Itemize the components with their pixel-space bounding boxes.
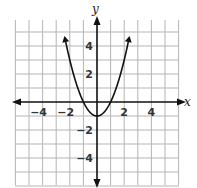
y-axis-label: y: [91, 2, 99, 16]
svg-text:−4: −4: [76, 152, 93, 165]
y-axis-down-arrow-icon: [94, 179, 101, 188]
coordinate-plane: −4−22442−2−4 x y: [0, 0, 197, 188]
svg-text:−4: −4: [30, 106, 47, 119]
svg-text:2: 2: [85, 68, 93, 81]
svg-text:2: 2: [120, 106, 128, 119]
svg-text:−2: −2: [76, 124, 93, 137]
svg-text:4: 4: [85, 40, 93, 53]
y-axis-up-arrow-icon: [94, 16, 101, 25]
svg-text:−2: −2: [57, 106, 74, 119]
graph-figure: −4−22442−2−4 x y: [0, 0, 197, 188]
x-axis-left-arrow-icon: [12, 99, 21, 106]
svg-text:4: 4: [148, 106, 156, 119]
x-axis: [12, 99, 186, 106]
x-axis-label: x: [184, 95, 191, 109]
